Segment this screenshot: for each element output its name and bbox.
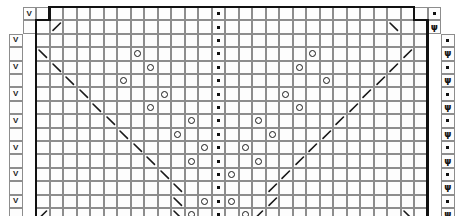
chart-cell	[333, 114, 347, 127]
chart-cell	[63, 195, 77, 208]
chart-cell	[144, 87, 158, 100]
chart-cell	[198, 181, 212, 194]
chart-cell	[401, 61, 415, 74]
chart-cell	[9, 195, 23, 208]
chart-cell	[306, 114, 320, 127]
chart-cell	[225, 181, 239, 194]
chart-cell	[266, 87, 280, 100]
chart-cell	[50, 195, 64, 208]
chart-cell	[306, 47, 320, 60]
chart-cell	[279, 101, 293, 114]
chart-cell	[198, 101, 212, 114]
chart-cell	[77, 101, 91, 114]
chart-cell	[239, 20, 253, 33]
chart-cell	[198, 168, 212, 181]
chart-cell	[9, 101, 23, 114]
chart-cell	[50, 181, 64, 194]
chart-cell	[171, 101, 185, 114]
chart-cell	[36, 87, 50, 100]
chart-cell	[360, 154, 374, 167]
chart-cell	[441, 141, 455, 154]
chart-cell	[198, 87, 212, 100]
knitting-chart: VψVψVψVψVψVψVψVψ 15131197531	[0, 0, 459, 216]
chart-cell	[266, 34, 280, 47]
chart-cell	[360, 195, 374, 208]
chart-cell	[104, 114, 118, 127]
chart-cell	[333, 101, 347, 114]
chart-cell	[158, 168, 172, 181]
chart-cell	[212, 101, 226, 114]
chart-cell	[320, 101, 334, 114]
chart-cell	[320, 195, 334, 208]
chart-cell	[320, 208, 334, 216]
chart-cell	[63, 141, 77, 154]
chart-cell	[104, 101, 118, 114]
chart-cell	[171, 20, 185, 33]
chart-cell	[77, 128, 91, 141]
chart-cell	[185, 34, 199, 47]
chart-cell	[266, 20, 280, 33]
chart-cell	[333, 7, 347, 20]
chart-cell	[252, 154, 266, 167]
chart-cell	[252, 47, 266, 60]
chart-cell	[171, 114, 185, 127]
chart-cell	[63, 114, 77, 127]
chart-cell	[252, 87, 266, 100]
chart-cell	[279, 20, 293, 33]
chart-cell	[90, 181, 104, 194]
chart-cell	[185, 195, 199, 208]
chart-cell	[9, 154, 23, 167]
chart-cell	[252, 181, 266, 194]
chart-cell	[225, 47, 239, 60]
chart-cell	[50, 87, 64, 100]
chart-cell	[144, 34, 158, 47]
chart-cell	[441, 87, 455, 100]
chart-cell	[428, 7, 442, 20]
chart-cell	[279, 47, 293, 60]
chart-cell	[212, 128, 226, 141]
chart-cell	[360, 34, 374, 47]
chart-cell	[185, 114, 199, 127]
chart-cell	[9, 34, 23, 47]
chart-cell	[293, 114, 307, 127]
chart-cell	[171, 195, 185, 208]
chart-cell	[198, 61, 212, 74]
chart-cell	[63, 181, 77, 194]
chart-cell	[360, 208, 374, 216]
chart-cell	[50, 20, 64, 33]
chart-cell	[320, 20, 334, 33]
chart-cell	[441, 154, 455, 167]
chart-cell	[441, 34, 455, 47]
chart-cell	[279, 87, 293, 100]
chart-cell	[320, 7, 334, 20]
chart-cell	[387, 128, 401, 141]
chart-cell	[104, 7, 118, 20]
chart-cell	[104, 47, 118, 60]
chart-cell	[441, 208, 455, 216]
chart-cell	[225, 208, 239, 216]
chart-cell	[171, 181, 185, 194]
chart-cell	[158, 87, 172, 100]
chart-cell	[104, 195, 118, 208]
chart-cell	[293, 208, 307, 216]
chart-cell	[77, 74, 91, 87]
chart-cell	[131, 195, 145, 208]
chart-cell	[50, 34, 64, 47]
chart-cell	[401, 154, 415, 167]
chart-cell	[90, 114, 104, 127]
chart-cell	[185, 47, 199, 60]
chart-cell	[36, 34, 50, 47]
chart-cell	[374, 128, 388, 141]
chart-cell	[225, 195, 239, 208]
chart-cell	[401, 87, 415, 100]
chart-cell	[158, 181, 172, 194]
chart-cell	[293, 141, 307, 154]
chart-cell	[239, 114, 253, 127]
chart-cell	[212, 61, 226, 74]
chart-cell	[90, 47, 104, 60]
chart-cell	[347, 141, 361, 154]
chart-cell	[306, 168, 320, 181]
chart-cell	[131, 154, 145, 167]
chart-cell	[387, 195, 401, 208]
chart-cell	[239, 7, 253, 20]
